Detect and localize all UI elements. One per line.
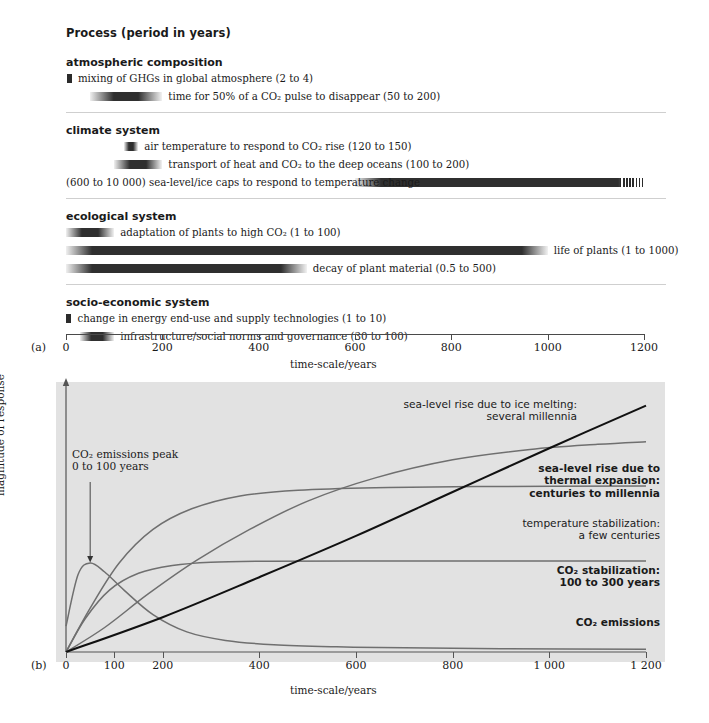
panel-a-row-label: mixing of GHGs in global atmosphere (2 t…: [78, 73, 313, 84]
annotation-peak-line: CO₂ emissions peak: [72, 448, 178, 460]
panel-a-group-divider: [66, 284, 666, 285]
panel-a-title: Process (period in years): [66, 26, 231, 40]
panel-a-row-label: decay of plant material (0.5 to 500): [313, 263, 496, 274]
panel-b-tick: [163, 652, 164, 658]
panel-a-range-bar: [124, 142, 138, 151]
panel-b-axis-title: time-scale/years: [290, 684, 377, 696]
label-co2-emissions-line: CO₂ emissions: [576, 616, 660, 628]
panel-a-tick-label: 800: [441, 341, 462, 354]
panel-a-timescales: Process (period in years) atmospheric co…: [0, 0, 709, 372]
panel-b-tick: [259, 652, 260, 658]
panel-b-tick-label: 400: [249, 659, 270, 672]
panel-a-row-label: air temperature to respond to CO₂ rise (…: [144, 141, 411, 152]
panel-b-tick-label: 100: [104, 659, 125, 672]
panel-a-row-label: life of plants (1 to 1000): [554, 245, 679, 256]
label-sea-level-thermal-expansion-line: centuries to millennia: [529, 487, 660, 499]
panel-a-group-heading: climate system: [66, 124, 160, 137]
panel-b-y-axis-label: magnitude of response: [0, 374, 6, 496]
panel-b-tick: [453, 652, 454, 658]
panel-a-range-bar: [66, 228, 114, 237]
panel-a-tick-label: 1000: [534, 341, 562, 354]
panel-b-tick: [549, 652, 550, 658]
panel-a-group-divider: [66, 112, 666, 113]
panel-a-tick-label: 1200: [630, 341, 658, 354]
label-sea-level-ice-melting: sea-level rise due to ice melting:severa…: [404, 398, 577, 423]
label-co2-stabilization-line: CO₂ stabilization:: [557, 564, 660, 576]
panel-a-tick: [644, 334, 645, 340]
label-co2-stabilization-line: 100 to 300 years: [557, 576, 660, 588]
panel-b-tick: [356, 652, 357, 658]
panel-a-tick: [162, 334, 163, 340]
panel-a-group-heading: ecological system: [66, 210, 177, 223]
panel-b-tick-label: 0: [63, 659, 70, 672]
panel-a-axis-title: time-scale/years: [290, 358, 377, 370]
label-temperature-stabilization-line: temperature stabilization:: [522, 517, 660, 529]
panel-a-range-bar: [66, 314, 71, 323]
panel-a-range-bar: [67, 74, 72, 83]
panel-a-range-bar: [66, 246, 547, 255]
panel-a-row-label: adaptation of plants to high CO₂ (1 to 1…: [120, 227, 340, 238]
panel-b-tick-label: 1 000: [534, 659, 566, 672]
panel-a-range-bar: [114, 160, 162, 169]
panel-a-range-bar: [66, 264, 307, 273]
label-temperature-stabilization: temperature stabilization:a few centurie…: [522, 517, 660, 542]
panel-a-group-heading: socio-economic system: [66, 296, 209, 309]
panel-b-response-curves: magnitude of response sea-level rise due…: [0, 376, 709, 723]
panel-a-tick: [355, 334, 356, 340]
panel-a-tick-label: 400: [248, 341, 269, 354]
panel-a-tick: [66, 334, 67, 340]
panel-a-row-label: time for 50% of a CO₂ pulse to disappear…: [168, 91, 440, 102]
label-sea-level-ice-melting-line: several millennia: [404, 410, 577, 422]
panel-b-tick: [646, 652, 647, 658]
panel-b-tick: [114, 652, 115, 658]
panel-a-row-label: (600 to 10 000) sea-level/ice caps to re…: [66, 177, 420, 188]
panel-b-tick-label: 200: [152, 659, 173, 672]
panel-a-tick-label: 200: [152, 341, 173, 354]
panel-a-range-bar-continuation: [620, 178, 644, 187]
panel-b-tick: [66, 652, 67, 658]
panel-a-row-label: change in energy end-use and supply tech…: [77, 313, 386, 324]
panel-b-tick-label: 1 200: [630, 659, 662, 672]
label-sea-level-thermal-expansion: sea-level rise due tothermal expansion:c…: [529, 462, 660, 499]
label-sea-level-thermal-expansion-line: thermal expansion:: [529, 474, 660, 486]
label-co2-stabilization: CO₂ stabilization:100 to 300 years: [557, 564, 660, 589]
panel-a-tick-label: 0: [63, 341, 70, 354]
panel-a-letter: (a): [31, 341, 46, 354]
panel-a-tick-label: 600: [345, 341, 366, 354]
annotation-peak-line: 0 to 100 years: [72, 460, 178, 472]
label-temperature-stabilization-line: a few centuries: [522, 529, 660, 541]
panel-a-range-bar: [90, 92, 162, 101]
figure-root: Process (period in years) atmospheric co…: [0, 0, 709, 723]
panel-b-letter: (b): [31, 659, 47, 672]
panel-a-tick: [548, 334, 549, 340]
panel-a-tick: [259, 334, 260, 340]
panel-a-group-divider: [66, 198, 666, 199]
panel-a-tick: [451, 334, 452, 340]
annotation-co2-emissions-peak: CO₂ emissions peak0 to 100 years: [72, 448, 178, 473]
panel-b-tick-label: 600: [346, 659, 367, 672]
label-sea-level-ice-melting-line: sea-level rise due to ice melting:: [404, 398, 577, 410]
panel-b-tick-label: 800: [442, 659, 463, 672]
label-co2-emissions: CO₂ emissions: [576, 616, 660, 628]
panel-a-group-heading: atmospheric composition: [66, 56, 223, 69]
panel-a-row-label: transport of heat and CO₂ to the deep oc…: [168, 159, 469, 170]
label-sea-level-thermal-expansion-line: sea-level rise due to: [529, 462, 660, 474]
